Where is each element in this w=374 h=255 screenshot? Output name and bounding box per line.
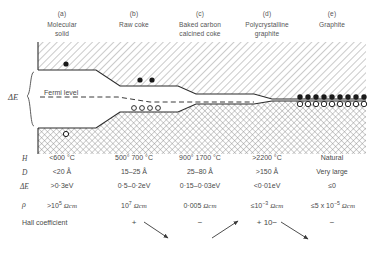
hole-a bbox=[63, 131, 68, 136]
fermi-level-line bbox=[40, 97, 254, 102]
electron-b-2 bbox=[149, 77, 154, 82]
hole-c-3 bbox=[148, 106, 153, 111]
electron-b-1 bbox=[137, 77, 142, 82]
fermi-level-label: Fermi level bbox=[44, 89, 79, 96]
hall-transition-arrows bbox=[0, 152, 374, 255]
column-name-a-line2: solid bbox=[12, 30, 112, 39]
hole-c-1 bbox=[132, 106, 137, 111]
electron-row-graphite bbox=[297, 94, 366, 99]
column-tag-e: (e) bbox=[282, 10, 374, 19]
arrow-d-to-e bbox=[281, 222, 308, 239]
band-structure-diagram: ΔE Fermi level bbox=[0, 42, 374, 154]
hole-c-4 bbox=[156, 106, 161, 111]
hole-row-graphite bbox=[297, 101, 366, 106]
column-name-d-line2: graphite bbox=[217, 30, 317, 39]
gap-label: ΔE bbox=[7, 92, 19, 102]
figure-root: (a) Molecular solid (b) Raw coke (c) Bak… bbox=[0, 0, 374, 255]
arrow-c-to-d bbox=[212, 221, 238, 238]
arrow-b-to-c bbox=[144, 222, 168, 238]
hole-c-2 bbox=[140, 106, 145, 111]
column-header-e: (e) Graphite bbox=[282, 10, 374, 30]
properties-table: H <600 °C 500° 700 °C 900° 1700 °C >2200… bbox=[0, 152, 374, 255]
electron-a bbox=[63, 61, 68, 66]
column-name-e-line1: Graphite bbox=[282, 21, 374, 30]
gap-brace bbox=[27, 72, 34, 126]
